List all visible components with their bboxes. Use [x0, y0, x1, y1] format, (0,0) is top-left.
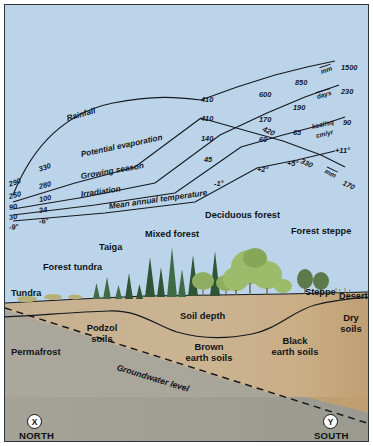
vegetation-label-tundra: Tundra — [11, 289, 41, 298]
forest-tundra-vegetation — [93, 273, 143, 299]
soil-label-brown-line2: earth soils — [171, 353, 247, 362]
growing-value-100: 100 — [38, 194, 51, 203]
vegetation-label-deciduous-forest: Deciduous forest — [205, 211, 271, 220]
soil-label-brown-line1: Brown — [177, 342, 241, 351]
irradiation-value-90: 90 — [343, 119, 351, 126]
vegetation-label-desert: Desert — [339, 292, 368, 301]
vegetation-label-forest-steppe: Forest steppe — [291, 227, 341, 236]
rainfall-value-410: 410 — [201, 96, 213, 103]
soil-label-black-line1: Black — [259, 336, 331, 345]
growing-season-line — [13, 85, 339, 209]
vegetation-label-forest-tundra: Forest tundra — [43, 263, 102, 272]
taiga-vegetation — [145, 247, 186, 297]
rainfall-value-850: 850 — [295, 79, 307, 86]
soil-label-podzol-line2: soils — [79, 334, 125, 343]
soil-label-permafrost: Permafrost — [11, 347, 61, 356]
growing-value-170: 170 — [259, 116, 271, 123]
soil-label-black-line2: earth soils — [255, 347, 335, 356]
north-marker: X — [27, 414, 42, 429]
temperature-value-minus9: -9° — [9, 223, 19, 232]
soil-label-soil-depth: Soil depth — [180, 311, 225, 320]
south-label: SOUTH — [314, 431, 349, 441]
terrain-layer — [5, 5, 369, 442]
irradiation-value-30: 30 — [8, 213, 17, 221]
temperature-value-minus1: -1° — [214, 180, 224, 187]
vegetation-label-taiga: Taiga — [99, 243, 122, 252]
north-label: NORTH — [19, 431, 54, 441]
rainfall-value-600: 600 — [259, 91, 271, 98]
growing-value-230: 230 — [341, 88, 353, 95]
growing-value-190: 190 — [293, 104, 305, 111]
soil-label-dry-line1: Dry — [335, 313, 367, 322]
rainfall-value-1500: 1500 — [341, 64, 357, 71]
cross-section-diagram: 290 330 250 280 90 100 30 34 -9° -6° Rai… — [0, 0, 373, 446]
temperature-value-plus2: +2° — [257, 166, 268, 173]
deciduous-forest-vegetation — [223, 248, 292, 295]
soil-label-podzol-line1: Podzol — [79, 323, 125, 332]
temperature-value-plus5: +5° — [287, 160, 298, 167]
temperature-value-minus6: -6° — [39, 217, 49, 226]
irradiation-value-45: 45 — [204, 156, 212, 163]
irradiation-value-60: 60 — [259, 136, 267, 143]
evaporation-value-410: 410 — [201, 115, 213, 122]
temperature-value-plus11: +11° — [335, 147, 350, 154]
irradiation-value-65: 65 — [293, 129, 301, 136]
irradiation-value-34: 34 — [38, 206, 47, 214]
vegetation-label-mixed-forest: Mixed forest — [145, 230, 199, 239]
growing-value-90: 90 — [8, 203, 17, 212]
south-marker: Y — [323, 414, 338, 429]
growing-value-140: 140 — [201, 135, 213, 142]
diagram-frame: 290 330 250 280 90 100 30 34 -9° -6° Rai… — [4, 4, 369, 442]
vegetation-label-steppe: Steppe — [305, 288, 336, 297]
soil-label-dry-line2: soils — [335, 324, 367, 333]
